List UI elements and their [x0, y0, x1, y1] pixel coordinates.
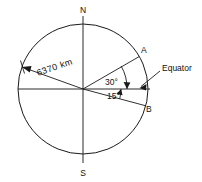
point-a-label: A: [141, 45, 147, 55]
angle-arc-30-arrowhead-icon: [124, 82, 131, 89]
radius-label: 6370 km: [35, 56, 74, 78]
angle-30-label: 30°: [105, 77, 118, 87]
angle-15-label: 15°: [107, 91, 120, 101]
earth-diagram: N S A B 6370 km 30° 15° Equator: [0, 0, 202, 182]
equator-leader-line: [141, 71, 160, 87]
equator-label: Equator: [162, 63, 192, 73]
point-b-label: B: [146, 104, 152, 114]
north-pole-label: N: [80, 5, 86, 15]
earth-diagram-container: N S A B 6370 km 30° 15° Equator: [0, 0, 202, 182]
south-pole-label: S: [80, 168, 86, 178]
